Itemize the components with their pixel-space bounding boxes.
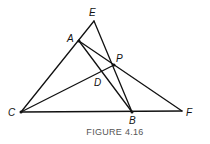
label-E: E [89, 7, 96, 18]
label-F: F [186, 107, 193, 118]
segment-CF [21, 111, 182, 112]
point-labels: E A P D C B F [8, 7, 193, 126]
segment-EB [94, 21, 132, 112]
point-markers [20, 40, 134, 114]
label-D: D [94, 77, 101, 88]
geometry-figure: E A P D C B F FIGURE 4.16 [0, 0, 210, 144]
label-B: B [129, 115, 136, 126]
figure-caption: FIGURE 4.16 [86, 127, 143, 137]
label-P: P [116, 53, 123, 64]
point-A-marker [78, 40, 81, 43]
segment-CE [21, 21, 94, 112]
segments [21, 21, 182, 112]
label-C: C [8, 107, 16, 118]
point-B-marker [131, 111, 134, 114]
segment-CP [21, 65, 114, 112]
point-C-marker [20, 111, 23, 114]
segment-AF [79, 41, 182, 111]
segment-AB [79, 41, 132, 112]
label-A: A [66, 33, 74, 44]
